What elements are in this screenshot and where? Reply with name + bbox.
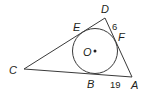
center-point-o xyxy=(94,50,97,53)
segment-label-ba: 19 xyxy=(110,79,121,90)
vertex-label-d: D xyxy=(101,3,109,15)
triangle-incircle-diagram: D E 6 F O C B 19 A xyxy=(0,0,145,92)
vertex-label-c: C xyxy=(9,64,17,76)
center-label-o: O xyxy=(83,46,92,58)
point-label-f: F xyxy=(118,31,126,43)
segment-label-df: 6 xyxy=(112,21,117,32)
point-label-e: E xyxy=(73,21,81,33)
point-label-b: B xyxy=(87,78,94,90)
vertex-label-a: A xyxy=(130,79,138,91)
